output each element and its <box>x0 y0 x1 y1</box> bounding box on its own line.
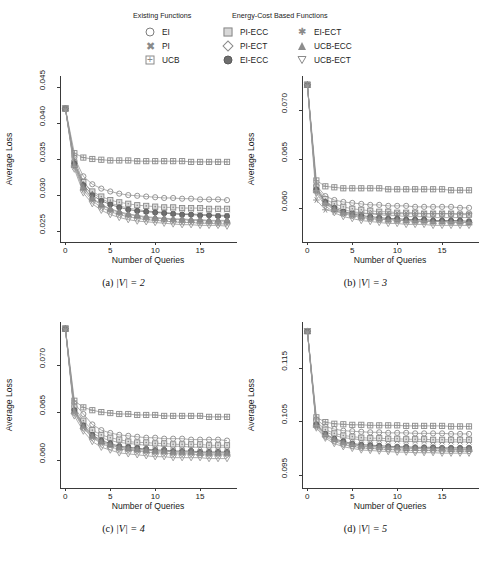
x-axis-label: Number of Queries <box>60 255 236 265</box>
circle-open-icon <box>140 25 160 39</box>
x-tick-mark <box>155 242 156 245</box>
y-tick-label: 0.070 <box>279 93 291 127</box>
legend-label: EI-ECC <box>240 55 268 65</box>
subplot-caption: (a) |V| = 2 <box>6 277 241 288</box>
series-ucb <box>63 106 230 165</box>
x-tick-mark <box>200 242 201 245</box>
x-tick-label: 5 <box>350 246 355 255</box>
caption-prefix: (c) <box>102 523 113 534</box>
x-tick-row: 051015 <box>302 242 478 256</box>
diamond-open-icon <box>218 39 238 53</box>
plot-area-a: Average Loss0.0250.0300.0350.0400.045051… <box>6 72 241 272</box>
y-tick-label: 0.045 <box>37 70 49 104</box>
x-tick-label: 10 <box>151 492 160 501</box>
legend-label: PI <box>162 41 170 51</box>
y-axis-label: Average Loss <box>4 360 14 450</box>
subplot-d: Average Loss0.0950.1050.115051015Number … <box>248 318 483 518</box>
x-tick-label: 10 <box>393 246 402 255</box>
subplot-b: Average Loss0.0600.0650.070051015Number … <box>248 72 483 272</box>
series-layer <box>302 76 478 242</box>
legend-column-energy-2: ✱EI-ECTUCB-ECCUCB-ECT <box>292 25 352 67</box>
asterisk-icon: ✱ <box>292 25 312 39</box>
plus-square-icon: + <box>140 53 160 67</box>
figure-legend: Existing Functions Energy-Cost Based Fun… <box>0 8 489 70</box>
series-layer <box>302 322 478 488</box>
legend-item-ucb-ecc: UCB-ECC <box>292 39 352 53</box>
legend-label: EI-ECT <box>314 27 341 37</box>
legend-label: UCB-ECT <box>314 55 351 65</box>
x-tick-label: 10 <box>393 492 402 501</box>
series-ucb <box>305 82 472 193</box>
x-tick-mark <box>397 242 398 245</box>
y-tick-label: 0.025 <box>37 214 49 248</box>
series-pi <box>305 82 472 220</box>
y-axis-label: Average Loss <box>246 360 256 450</box>
x-tick-label: 15 <box>438 492 447 501</box>
series-layer <box>60 76 236 242</box>
y-tick-label: 0.065 <box>37 395 49 429</box>
x-tick-label: 0 <box>63 492 68 501</box>
x-tick-label: 15 <box>196 246 205 255</box>
x-tick-mark <box>155 488 156 491</box>
x-tick-label: 15 <box>438 246 447 255</box>
x-tick-label: 15 <box>196 492 205 501</box>
legend-label: EI <box>162 27 170 37</box>
y-tick-label: 0.060 <box>279 191 291 225</box>
x-tick-mark <box>397 488 398 491</box>
circle-filled-icon <box>218 53 238 67</box>
legend-column-existing: EI✖PI+UCB <box>140 25 180 67</box>
plot-area-c: Average Loss0.0600.0650.070051015Number … <box>6 318 241 518</box>
legend-column-energy-1: PI-ECCPI-ECTEI-ECC <box>218 25 268 67</box>
y-tick-label: 0.105 <box>279 404 291 438</box>
caption-prefix: (a) <box>102 277 113 288</box>
y-axis-label: Average Loss <box>4 114 14 204</box>
x-tick-mark <box>352 242 353 245</box>
x-tick-label: 5 <box>108 246 113 255</box>
square-dotted-icon <box>218 25 238 39</box>
legend-item-pi-ecc: PI-ECC <box>218 25 268 39</box>
x-tick-mark <box>65 488 66 491</box>
series-ei-ecc <box>305 329 472 451</box>
series-ei <box>63 106 230 203</box>
legend-item-pi: ✖PI <box>140 39 180 53</box>
caption-math: |V| = 4 <box>116 523 145 534</box>
x-tick-mark <box>442 242 443 245</box>
series-ucb <box>305 329 472 430</box>
subplot-caption: (b) |V| = 3 <box>248 277 483 288</box>
x-axis-label: Number of Queries <box>302 255 478 265</box>
y-tick-label: 0.030 <box>37 178 49 212</box>
y-tick-label: 0.115 <box>279 351 291 385</box>
x-tick-label: 10 <box>151 246 160 255</box>
y-tick-label: 0.070 <box>37 348 49 382</box>
caption-math: |V| = 3 <box>358 277 387 288</box>
x-tick-mark <box>442 488 443 491</box>
caption-prefix: (d) <box>344 523 356 534</box>
x-tick-mark <box>307 488 308 491</box>
x-axis-label: Number of Queries <box>60 501 236 511</box>
subplot-a: Average Loss0.0250.0300.0350.0400.045051… <box>6 72 241 272</box>
x-tick-label: 5 <box>350 492 355 501</box>
x-tick-mark <box>307 242 308 245</box>
x-tick-mark <box>110 242 111 245</box>
subplot-caption: (d) |V| = 5 <box>248 523 483 534</box>
legend-group-title-energy-cost: Energy-Cost Based Functions <box>232 11 327 20</box>
x-tick-mark <box>200 488 201 491</box>
x-cross-icon: ✖ <box>140 39 160 53</box>
x-tick-label: 0 <box>305 246 310 255</box>
x-tick-mark <box>65 242 66 245</box>
legend-group-title-existing: Existing Functions <box>133 11 191 20</box>
legend-label: UCB-ECC <box>314 41 352 51</box>
y-tick-label: 0.035 <box>37 142 49 176</box>
triangle-down-open-icon <box>292 53 312 67</box>
x-tick-row: 051015 <box>302 488 478 502</box>
series-ucb <box>63 326 230 419</box>
legend-item-ucb-ect: UCB-ECT <box>292 53 352 67</box>
x-tick-label: 5 <box>108 492 113 501</box>
y-tick-label: 0.060 <box>37 443 49 477</box>
x-tick-label: 0 <box>305 492 310 501</box>
legend-item-pi-ect: PI-ECT <box>218 39 268 53</box>
x-tick-row: 051015 <box>60 488 236 502</box>
triangle-filled-icon <box>292 39 312 53</box>
x-tick-label: 0 <box>63 246 68 255</box>
series-ei-ect <box>304 82 472 217</box>
